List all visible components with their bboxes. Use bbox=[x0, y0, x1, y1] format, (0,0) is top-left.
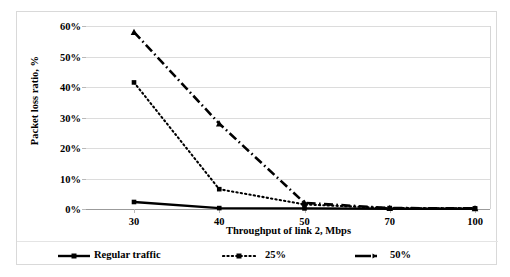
series-line bbox=[134, 32, 475, 208]
legend-entry-1[interactable]: Regular traffic bbox=[57, 245, 161, 263]
data-point-marker bbox=[132, 200, 137, 205]
y-axis-title: Packet loss ratio, % bbox=[29, 16, 40, 186]
legend-entry-3[interactable]: 50% bbox=[347, 245, 411, 263]
data-point-marker bbox=[131, 29, 138, 35]
chart-legend: Regular traffic25%50% bbox=[17, 241, 498, 266]
chart-series-overlay bbox=[86, 26, 491, 209]
chart-figure-frame: Packet loss ratio, % 60%50%40%30%20%10%0… bbox=[16, 11, 497, 265]
y-axis-tick-label: 20% bbox=[41, 143, 81, 154]
x-axis-title: Throughput of link 2, Mbps bbox=[86, 225, 491, 236]
legend-swatch-dotted-line-square-marker bbox=[222, 248, 256, 260]
legend-swatch-dash-dot-line-arrow-marker bbox=[347, 248, 381, 260]
data-point-marker bbox=[302, 206, 307, 211]
y-axis-tick-label: 50% bbox=[41, 51, 81, 62]
data-point-marker bbox=[217, 187, 222, 192]
legend-label: Regular traffic bbox=[94, 249, 161, 260]
x-axis-tick-mark bbox=[134, 209, 135, 213]
legend-label: 25% bbox=[265, 249, 286, 260]
y-axis-tick-label: 30% bbox=[41, 112, 81, 123]
y-axis-tick-label: 60% bbox=[41, 21, 81, 32]
series-line bbox=[134, 82, 475, 208]
y-axis-tick-labels: 60%50%40%30%20%10%0% bbox=[41, 12, 81, 266]
y-axis-tick-label: 40% bbox=[41, 82, 81, 93]
data-point-marker bbox=[216, 120, 223, 126]
legend-swatch-solid-line-square-marker bbox=[57, 248, 91, 260]
y-axis-tick-label: 10% bbox=[41, 173, 81, 184]
data-point-marker bbox=[217, 206, 222, 211]
series-2 bbox=[132, 80, 478, 211]
data-point-marker bbox=[132, 80, 137, 85]
legend-entry-2[interactable]: 25% bbox=[222, 245, 286, 263]
legend-label: 50% bbox=[390, 249, 411, 260]
chart-plot-region: Packet loss ratio, % 60%50%40%30%20%10%0… bbox=[17, 12, 498, 266]
series-3 bbox=[131, 29, 479, 211]
y-axis-tick-label: 0% bbox=[41, 204, 81, 215]
